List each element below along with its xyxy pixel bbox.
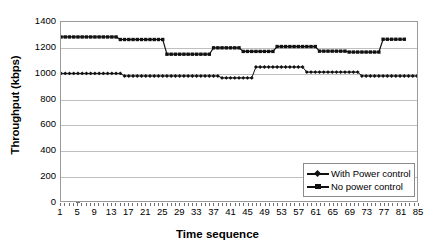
diamond-marker-icon	[148, 74, 152, 78]
square-marker-icon	[191, 53, 194, 56]
square-marker-icon	[377, 50, 380, 53]
x-tick-mark	[137, 203, 138, 206]
square-marker-icon	[360, 50, 363, 53]
y-tick-label: 800	[22, 94, 56, 104]
diamond-marker-icon	[275, 65, 279, 69]
diamond-marker-icon	[106, 71, 110, 75]
x-tick-mark	[171, 203, 172, 206]
diamond-marker-icon	[279, 65, 283, 69]
diamond-marker-icon	[411, 74, 415, 78]
diamond-marker-icon	[241, 76, 245, 80]
square-marker-icon	[335, 49, 338, 52]
x-tick-mark	[188, 203, 189, 206]
square-marker-icon	[288, 45, 291, 48]
square-marker-icon	[123, 38, 126, 41]
square-marker-icon	[309, 45, 312, 48]
square-marker-icon	[68, 35, 71, 38]
y-tick-label: 400	[22, 145, 56, 155]
square-marker-icon	[394, 38, 397, 41]
square-marker-icon	[314, 45, 317, 48]
diamond-marker-icon	[101, 71, 105, 75]
y-tick-label: 1400	[22, 16, 56, 26]
x-axis-title-text: Time sequence	[176, 228, 259, 240]
diamond-marker-icon	[199, 74, 203, 78]
diamond-marker-icon	[322, 70, 326, 74]
square-marker-icon	[348, 50, 351, 53]
x-tick-mark	[341, 203, 342, 206]
diamond-marker-icon	[186, 74, 190, 78]
legend-label-1: No power control	[329, 181, 403, 192]
diamond-marker-icon	[390, 74, 394, 78]
diamond-marker-icon	[347, 70, 351, 74]
diamond-marker-icon	[254, 65, 258, 69]
square-marker-icon	[318, 49, 321, 52]
chart-legend: With Power control No power control	[303, 163, 415, 197]
x-tick-mark	[256, 203, 257, 206]
legend-item-no-power-control: No power control	[307, 180, 410, 193]
diamond-marker-icon	[364, 74, 368, 78]
diamond-marker-icon	[165, 74, 169, 78]
diamond-marker-icon	[381, 74, 385, 78]
square-marker-icon	[352, 50, 355, 53]
x-tick-mark	[409, 203, 410, 206]
diamond-marker-icon	[131, 74, 135, 78]
diamond-marker-icon	[195, 74, 199, 78]
diamond-marker-icon	[267, 65, 271, 69]
diamond-marker-icon	[334, 70, 338, 74]
diamond-marker-icon	[258, 65, 262, 69]
square-marker-icon	[178, 53, 181, 56]
diamond-marker-icon	[89, 71, 93, 75]
diamond-marker-icon	[402, 74, 406, 78]
square-marker-icon	[157, 38, 160, 41]
square-marker-icon	[254, 50, 257, 53]
square-marker-icon	[322, 49, 325, 52]
diamond-marker-icon	[72, 71, 76, 75]
x-tick-label: 85	[407, 207, 429, 217]
square-marker-icon	[280, 45, 283, 48]
diamond-marker-icon	[343, 70, 347, 74]
diamond-marker-icon	[296, 65, 300, 69]
square-marker-icon	[259, 50, 262, 53]
diamond-marker-icon	[326, 70, 330, 74]
square-marker-icon	[85, 35, 88, 38]
y-tick-label: 0	[22, 197, 56, 207]
x-tick-mark	[358, 203, 359, 206]
x-tick-mark	[375, 203, 376, 206]
x-tick-mark	[392, 203, 393, 206]
diamond-marker-icon	[61, 71, 63, 75]
square-marker-icon	[250, 50, 253, 53]
diamond-marker-icon	[169, 74, 173, 78]
square-marker-icon	[284, 45, 287, 48]
square-marker-icon	[106, 35, 109, 38]
square-marker-icon	[275, 45, 278, 48]
square-marker-icon	[381, 38, 384, 41]
square-marker-icon	[305, 45, 308, 48]
diamond-marker-icon	[271, 65, 275, 69]
x-tick-mark	[120, 203, 121, 206]
x-tick-mark	[81, 203, 82, 206]
square-marker-icon	[72, 35, 75, 38]
square-marker-icon	[403, 38, 406, 41]
series-with-power-control	[61, 65, 417, 80]
square-marker-icon	[386, 38, 389, 41]
square-marker-icon	[102, 35, 105, 38]
square-marker-icon	[225, 46, 228, 49]
square-marker-icon	[81, 35, 84, 38]
diamond-marker-icon	[309, 70, 313, 74]
diamond-marker-icon	[173, 74, 177, 78]
x-tick-mark	[324, 203, 325, 206]
square-marker-icon	[195, 53, 198, 56]
square-marker-icon	[307, 181, 329, 192]
x-tick-mark	[290, 203, 291, 206]
diamond-marker-icon	[262, 65, 266, 69]
diamond-marker-icon	[144, 74, 148, 78]
square-marker-icon	[199, 53, 202, 56]
square-marker-icon	[267, 50, 270, 53]
square-marker-icon	[119, 38, 122, 41]
diamond-marker-icon	[368, 74, 372, 78]
square-marker-icon	[216, 46, 219, 49]
diamond-marker-icon	[394, 74, 398, 78]
square-marker-icon	[153, 38, 156, 41]
x-tick-mark	[154, 203, 155, 206]
square-marker-icon	[131, 38, 134, 41]
